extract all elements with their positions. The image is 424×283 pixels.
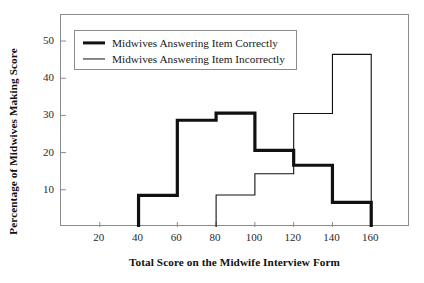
x-axis-title: Total Score on the Midwife Interview For… — [60, 256, 409, 268]
y-tick-label: 40 — [20, 71, 54, 83]
y-tick-label: 50 — [20, 34, 54, 46]
thin-line-swatch — [83, 54, 105, 64]
series-line-correctly — [139, 113, 372, 227]
legend-label-correctly: Midwives Answering Item Correctly — [112, 36, 278, 51]
x-tick-label: 120 — [273, 231, 313, 243]
x-tick-label: 80 — [195, 231, 235, 243]
y-tick-label: 20 — [20, 146, 54, 158]
y-tick-label: 10 — [20, 183, 54, 195]
x-tick-label: 100 — [234, 231, 274, 243]
x-tick-label: 140 — [311, 231, 351, 243]
chart-page: Percentage of Midwives Making Score 1020… — [0, 0, 424, 283]
x-tick-label: 20 — [79, 231, 119, 243]
x-tick-label: 60 — [156, 231, 196, 243]
legend-item-correctly: Midwives Answering Item Correctly — [83, 35, 288, 51]
legend: Midwives Answering Item Correctly Midwiv… — [74, 30, 297, 70]
thick-line-swatch — [83, 38, 105, 48]
legend-label-incorrectly: Midwives Answering Item Incorrectly — [112, 52, 285, 67]
x-tick-label: 40 — [118, 231, 158, 243]
legend-item-incorrectly: Midwives Answering Item Incorrectly — [83, 51, 288, 67]
x-tick-label: 160 — [350, 231, 390, 243]
y-tick-label: 30 — [20, 108, 54, 120]
